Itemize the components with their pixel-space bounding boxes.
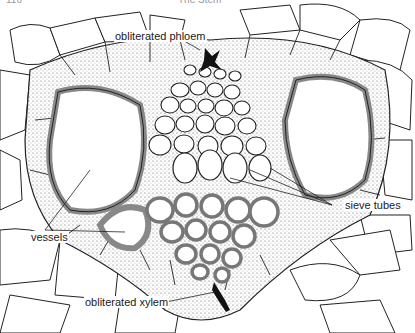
label-sieve-tubes: sieve tubes bbox=[344, 199, 402, 211]
label-obliterated-phloem: obliterated phloem bbox=[114, 30, 207, 42]
label-vessels: vessels bbox=[30, 231, 69, 243]
label-obliterated-xylem: obliterated xylem bbox=[84, 296, 169, 308]
vascular-bundle-illustration bbox=[0, 0, 415, 333]
